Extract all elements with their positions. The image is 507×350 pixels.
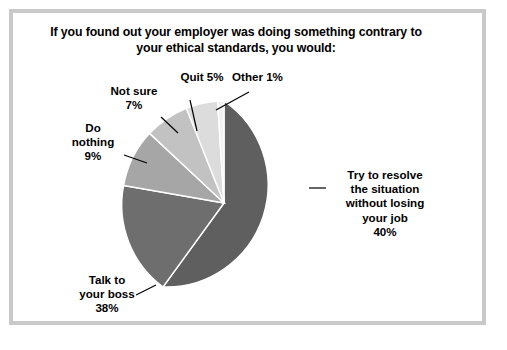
pie-label-do-nothing: Do nothing 9% bbox=[60, 121, 126, 164]
pie-label-talk-to-your-boss: Talk to your boss 38% bbox=[62, 273, 152, 316]
pie-label-other: Other 1% bbox=[232, 70, 310, 84]
pie-chart-figure: If you found out your employer was doing… bbox=[0, 0, 507, 350]
pie-label-not-sure: Not sure 7% bbox=[95, 84, 173, 112]
pie-label-try-to-resolve: Try to resolve the situation without los… bbox=[329, 168, 441, 239]
pie-label-quit: Quit 5% bbox=[163, 70, 241, 84]
